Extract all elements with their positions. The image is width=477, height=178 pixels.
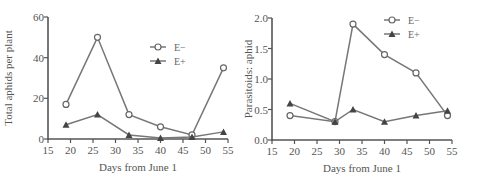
y-tick-label: 0.5 <box>254 104 268 116</box>
triangle-marker-icon <box>350 106 357 113</box>
y-tick-label: 0.0 <box>254 134 268 146</box>
x-tick-label: 30 <box>110 144 122 156</box>
x-tick-label: 40 <box>155 144 167 156</box>
x-tick-label: 45 <box>402 145 414 157</box>
circle-marker-icon <box>382 52 388 58</box>
legend-label: E+ <box>408 29 420 40</box>
triangle-marker-icon <box>94 111 101 118</box>
x-tick-label: 20 <box>289 145 301 157</box>
y-tick-label: 1.0 <box>254 73 268 85</box>
x-tick-label: 55 <box>223 144 235 156</box>
legend-label: E− <box>174 42 186 53</box>
circle-marker-icon <box>126 112 132 118</box>
y-tick-label: 20 <box>33 92 45 104</box>
circle-marker-icon <box>389 17 395 23</box>
x-tick-label: 45 <box>178 144 190 156</box>
y-tick-label: 60 <box>33 11 45 23</box>
x-tick-label: 35 <box>357 145 369 157</box>
x-tick-label: 50 <box>200 144 212 156</box>
x-tick-label: 20 <box>65 144 77 156</box>
x-tick-label: 35 <box>133 144 145 156</box>
circle-marker-icon <box>63 101 69 107</box>
y-tick-label: 2.0 <box>254 12 268 24</box>
parasitoids-chart: 1520253035404550550.00.51.01.52.0Days fr… <box>242 12 458 174</box>
circle-marker-icon <box>350 21 356 27</box>
circle-marker-icon <box>413 70 419 76</box>
x-axis-label: Days from June 1 <box>323 162 401 174</box>
circle-marker-icon <box>155 44 161 50</box>
circle-marker-icon <box>95 34 101 40</box>
circle-marker-icon <box>221 65 227 71</box>
x-axis-label: Days from June 1 <box>99 161 177 173</box>
circle-marker-icon <box>287 113 293 119</box>
x-tick-label: 25 <box>88 144 100 156</box>
legend-label: E− <box>408 15 420 26</box>
y-axis-label: Total aphids per plant <box>2 30 14 125</box>
x-tick-label: 55 <box>447 145 459 157</box>
x-tick-label: 15 <box>267 145 279 157</box>
x-tick-label: 15 <box>43 144 55 156</box>
series-line <box>66 37 224 135</box>
series-line <box>290 24 448 122</box>
x-tick-label: 50 <box>424 145 436 157</box>
aphids-chart: 1520253035404550550204060Days from June … <box>2 11 234 173</box>
figure: 1520253035404550550204060Days from June … <box>0 0 477 178</box>
x-tick-label: 25 <box>312 145 324 157</box>
x-tick-label: 30 <box>334 145 346 157</box>
y-tick-label: 40 <box>33 52 45 64</box>
legend-label: E+ <box>174 56 186 67</box>
x-tick-label: 40 <box>379 145 391 157</box>
y-tick-label: 0 <box>39 133 45 145</box>
circle-marker-icon <box>158 124 164 130</box>
triangle-marker-icon <box>287 100 294 107</box>
y-axis-label: Parasitoids: aphid <box>242 39 254 118</box>
y-tick-label: 1.5 <box>254 43 268 55</box>
